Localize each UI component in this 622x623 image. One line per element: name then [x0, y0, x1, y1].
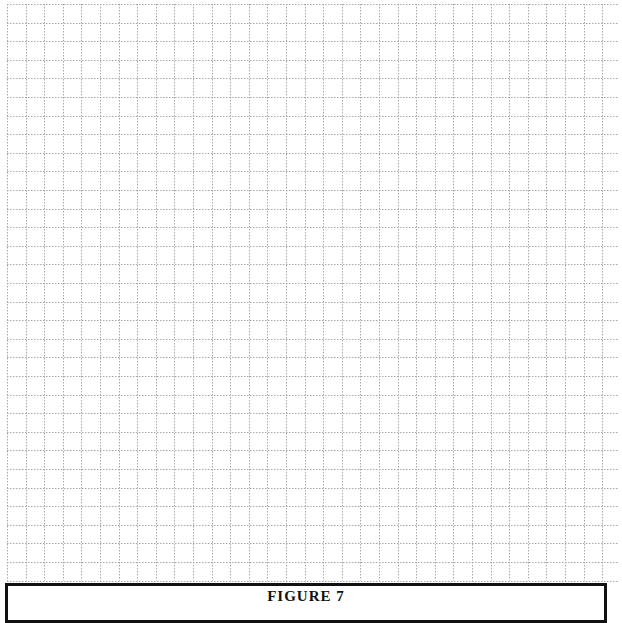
- figure-title: FIGURE 7: [8, 588, 604, 605]
- graph-paper-grid: [7, 4, 617, 584]
- grid-lines: [7, 4, 619, 586]
- figure-caption-box: FIGURE 7: [5, 583, 607, 623]
